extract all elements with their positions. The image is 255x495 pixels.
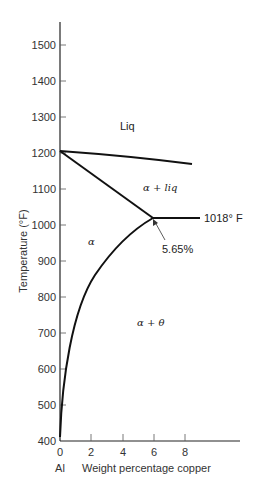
x-ticks — [91, 434, 185, 441]
x-tick-labels: 0 2 4 6 8 — [57, 446, 188, 458]
y-tick-label: 1000 — [32, 219, 56, 231]
y-tick-label: 500 — [38, 399, 56, 411]
phase-diagram: 1500 1400 1300 1200 1100 1000 900 800 70… — [0, 0, 255, 495]
y-tick-label: 900 — [38, 255, 56, 267]
x-tick-label: 4 — [120, 446, 126, 458]
liquidus-upper-curve — [60, 151, 192, 164]
y-tick-label: 1500 — [32, 39, 56, 51]
x-axis-title: Weight percentage copper — [82, 462, 211, 474]
y-ticks — [60, 45, 66, 405]
x-tick-label: 0 — [57, 446, 63, 458]
x-origin-label: Al — [55, 462, 65, 474]
y-tick-labels: 1500 1400 1300 1200 1100 1000 900 800 70… — [32, 39, 56, 447]
x-tick-label: 8 — [182, 446, 188, 458]
y-tick-label: 600 — [38, 363, 56, 375]
y-axis-title: Temperature (°F) — [17, 209, 29, 292]
eutectic-temperature-label: 1018° F — [204, 212, 243, 224]
annotation-arrow-line — [155, 222, 165, 240]
eutectic-composition-label: 5.65% — [162, 243, 193, 255]
y-tick-label: 700 — [38, 327, 56, 339]
y-tick-label: 1400 — [32, 75, 56, 87]
region-alpha-theta-label: α + θ — [137, 317, 165, 328]
y-tick-label: 1200 — [32, 147, 56, 159]
y-tick-label: 800 — [38, 291, 56, 303]
region-liq-label: Liq — [120, 120, 135, 132]
region-alpha-label: α — [88, 236, 95, 247]
region-alpha-liq-label: α + liq — [143, 182, 177, 193]
x-tick-label: 6 — [151, 446, 157, 458]
y-tick-label: 1100 — [32, 183, 56, 195]
y-tick-label: 400 — [38, 435, 56, 447]
y-tick-label: 1300 — [32, 111, 56, 123]
liquidus-line — [60, 151, 153, 218]
arrow-head-icon — [153, 219, 158, 226]
x-tick-label: 2 — [88, 446, 94, 458]
